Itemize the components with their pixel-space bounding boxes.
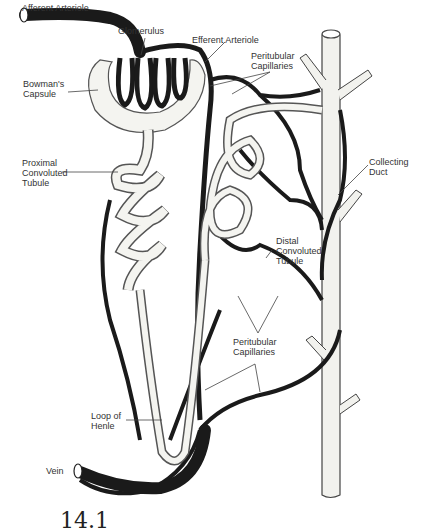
label-peritubular-capillaries-bottom: Peritubular Capillaries (233, 337, 277, 357)
label-loop-of-henle: Loop of Henle (91, 411, 121, 431)
label-peritubular-capillaries-top: Peritubular Capillaries (251, 51, 295, 71)
label-proximal-convoluted-tubule: Proximal Convoluted Tubule (22, 158, 68, 188)
label-efferent-arteriole: Efferent Arteriole (192, 35, 259, 45)
figure-number: 14.1 (60, 508, 109, 532)
glomerulus (118, 58, 186, 108)
label-collecting-duct: Collecting Duct (369, 157, 409, 177)
label-distal-convoluted-tubule: Distal Convoluted Tubule (276, 236, 322, 266)
label-vein: Vein (46, 466, 64, 476)
proximal-convoluted-tubule (116, 130, 165, 290)
label-glomerulus: Glomerulus (118, 26, 164, 36)
label-afferent-arteriole: Afferent Arteriole (22, 3, 89, 13)
label-bowmans-capsule: Bowman's Capsule (23, 79, 64, 99)
